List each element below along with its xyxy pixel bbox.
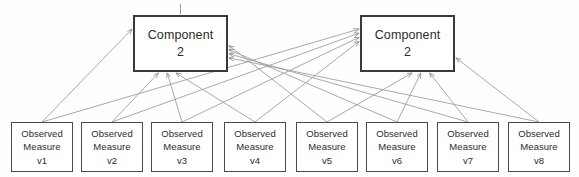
observed-v2-label-line3: v2 <box>107 154 117 167</box>
path-diagram: Component 2 Component 2 Observed Measure… <box>0 0 579 177</box>
component-box-right[interactable]: Component 2 <box>360 15 455 72</box>
observed-v6-label-line3: v6 <box>392 154 402 167</box>
observed-v7-label-line1: Observed <box>447 127 489 140</box>
component-right-label-line1: Component <box>375 27 441 44</box>
observed-v7-label-line3: v7 <box>463 154 473 167</box>
observed-v5-label-line3: v5 <box>322 154 332 167</box>
observed-v8-label-line3: v8 <box>534 154 544 167</box>
observed-v2-label-line2: Measure <box>93 140 130 153</box>
observed-box-v5[interactable]: Observed Measure v5 <box>296 122 358 172</box>
observed-v5-label-line1: Observed <box>306 127 348 140</box>
observed-box-v8[interactable]: Observed Measure v8 <box>508 122 570 172</box>
observed-box-v7[interactable]: Observed Measure v7 <box>437 122 499 172</box>
component-left-label-line1: Component <box>148 27 214 44</box>
observed-v7-label-line2: Measure <box>449 140 486 153</box>
observed-box-v4[interactable]: Observed Measure v4 <box>224 122 286 172</box>
component-right-label-line2: 2 <box>404 44 411 61</box>
observed-box-v3[interactable]: Observed Measure v3 <box>151 122 213 172</box>
component-left-label-line2: 2 <box>177 44 184 61</box>
observed-v1-label-line1: Observed <box>21 127 63 140</box>
observed-v5-label-line2: Measure <box>308 140 345 153</box>
observed-v3-label-line3: v3 <box>177 154 187 167</box>
node-layer: Component 2 Component 2 Observed Measure… <box>0 0 579 177</box>
observed-box-v2[interactable]: Observed Measure v2 <box>81 122 143 172</box>
observed-v4-label-line1: Observed <box>234 127 276 140</box>
component-box-left[interactable]: Component 2 <box>133 15 228 72</box>
observed-v6-label-line2: Measure <box>378 140 415 153</box>
observed-v6-label-line1: Observed <box>376 127 418 140</box>
observed-box-v6[interactable]: Observed Measure v6 <box>366 122 428 172</box>
observed-v3-label-line2: Measure <box>163 140 200 153</box>
observed-v8-label-line2: Measure <box>520 140 557 153</box>
observed-v8-label-line1: Observed <box>518 127 560 140</box>
observed-v1-label-line3: v1 <box>37 154 47 167</box>
observed-v4-label-line3: v4 <box>250 154 260 167</box>
observed-v4-label-line2: Measure <box>236 140 273 153</box>
observed-v3-label-line1: Observed <box>161 127 203 140</box>
observed-v2-label-line1: Observed <box>91 127 133 140</box>
observed-v1-label-line2: Measure <box>23 140 60 153</box>
observed-box-v1[interactable]: Observed Measure v1 <box>11 122 73 172</box>
